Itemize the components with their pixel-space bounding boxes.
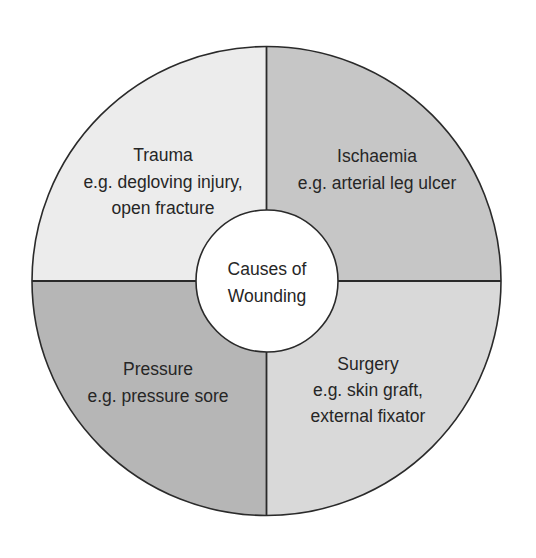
center-circle: [196, 210, 338, 352]
center-label-line2: Wounding: [228, 286, 307, 306]
surgery-example-line2: external fixator: [311, 406, 426, 426]
ischaemia-example-line1: e.g. arterial leg ulcer: [298, 173, 457, 193]
trauma-title: Trauma: [133, 145, 193, 165]
ischaemia-title: Ischaemia: [337, 146, 417, 166]
surgery-title: Surgery: [337, 354, 399, 374]
center-label-line1: Causes of: [228, 259, 307, 279]
causes-of-wounding-diagram: Causes of Wounding Trauma e.g. degloving…: [0, 0, 536, 558]
trauma-example-line1: e.g. degloving injury,: [83, 172, 242, 192]
pressure-example-line1: e.g. pressure sore: [87, 386, 228, 406]
trauma-example-line2: open fracture: [111, 198, 214, 218]
surgery-example-line1: e.g. skin graft,: [313, 380, 423, 400]
pressure-title: Pressure: [123, 359, 193, 379]
